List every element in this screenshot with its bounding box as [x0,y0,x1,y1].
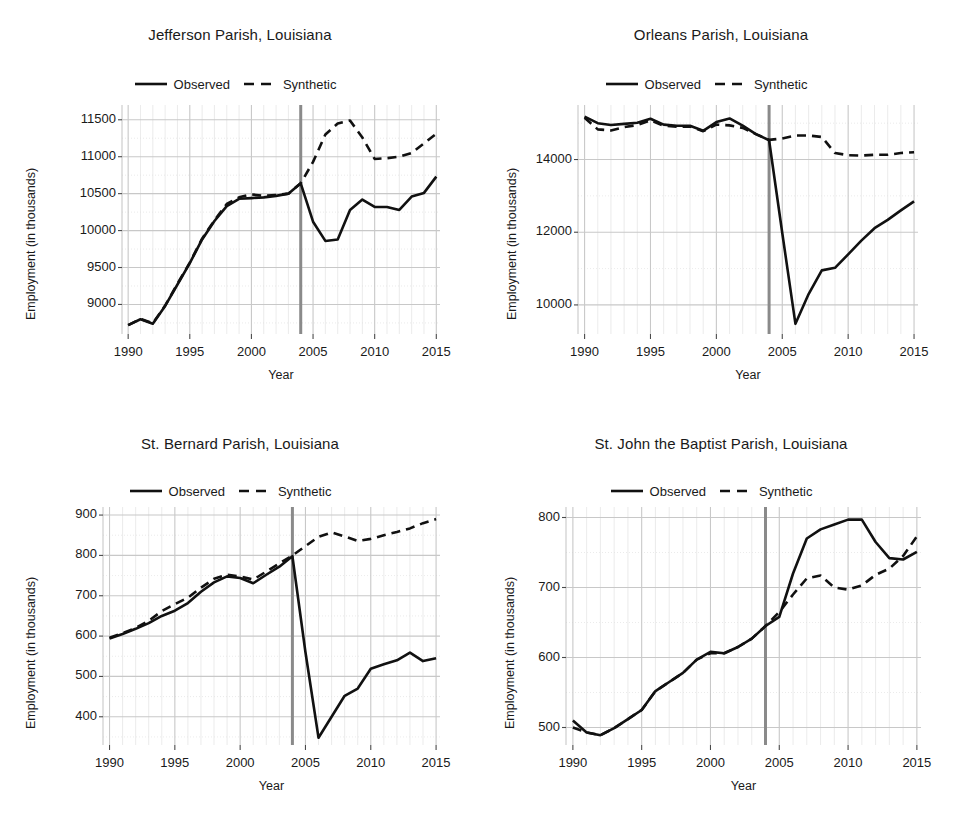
y-tick-label: 800 [37,546,97,561]
y-tick-label: 11000 [56,148,116,163]
x-tick-label: 2015 [406,755,466,770]
x-tick-label: 2010 [818,755,878,770]
x-tick-label: 2010 [345,344,405,359]
y-tick-label: 400 [37,708,97,723]
panel-st-john-the-baptist: St. John the Baptist Parish, Louisiana O… [481,409,961,817]
y-tick-label: 600 [37,627,97,642]
y-tick-label: 500 [37,667,97,682]
x-tick-label: 2010 [341,755,401,770]
figure-root: Jefferson Parish, Louisiana Observed Syn… [0,0,961,817]
x-tick-label: 1995 [160,344,220,359]
y-tick-label: 10000 [512,296,572,311]
y-tick-label: 800 [500,509,560,524]
y-tick-label: 11500 [56,111,116,126]
y-tick-label: 10500 [56,185,116,200]
y-tick-label: 700 [37,587,97,602]
x-tick-label: 2000 [686,344,746,359]
x-tick-label: 1990 [98,344,158,359]
x-tick-label: 2000 [210,755,270,770]
y-tick-label: 14000 [512,151,572,166]
x-tick-label: 2005 [275,755,335,770]
x-tick-label: 1995 [612,755,672,770]
x-tick-label: 2005 [283,344,343,359]
x-tick-label: 2010 [818,344,878,359]
x-tick-label: 2000 [221,344,281,359]
x-tick-label: 1990 [80,755,140,770]
y-tick-label: 10000 [56,222,116,237]
x-tick-label: 2005 [749,755,809,770]
panel-st-bernard: St. Bernard Parish, Louisiana Observed S… [0,409,480,817]
x-tick-label: 1995 [620,344,680,359]
x-tick-label: 1990 [543,755,603,770]
x-tick-label: 1995 [145,755,205,770]
y-tick-label: 9500 [56,259,116,274]
y-tick-label: 600 [500,649,560,664]
x-tick-label: 2015 [884,344,944,359]
y-tick-label: 9000 [56,295,116,310]
x-tick-label: 2015 [406,344,466,359]
x-tick-label: 2000 [680,755,740,770]
panel-jefferson: Jefferson Parish, Louisiana Observed Syn… [0,0,480,408]
x-tick-label: 1990 [555,344,615,359]
x-tick-label: 2015 [887,755,947,770]
y-tick-label: 500 [500,719,560,734]
y-tick-label: 12000 [512,223,572,238]
x-tick-label: 2005 [752,344,812,359]
y-tick-label: 900 [37,506,97,521]
panel-orleans: Orleans Parish, Louisiana Observed Synth… [481,0,961,408]
y-tick-label: 700 [500,579,560,594]
